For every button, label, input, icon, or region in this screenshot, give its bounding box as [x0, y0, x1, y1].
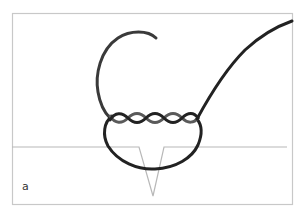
frame	[13, 14, 293, 205]
panel-label: a	[22, 180, 29, 193]
suture-tail	[197, 21, 292, 119]
suture-loop-upper	[97, 32, 156, 118]
suture-loop-lower	[105, 116, 201, 169]
tissue-surface-line	[12, 147, 287, 196]
suture-knot-diagram	[0, 0, 300, 211]
